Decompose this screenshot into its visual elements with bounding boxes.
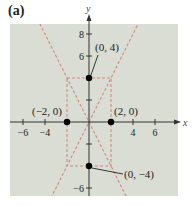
x-tick-label: 4 bbox=[131, 127, 136, 138]
x-tick-label: 6 bbox=[153, 127, 158, 138]
x-tick-label: −4 bbox=[40, 127, 51, 138]
y-tick-label: −6 bbox=[73, 183, 84, 194]
point-label: (0, −4) bbox=[124, 168, 154, 181]
hyperbola-graph: xy −6−446−668 (0, 4)(0, −4)(−2, 0)(2, 0) bbox=[0, 0, 195, 208]
point-label: (2, 0) bbox=[114, 105, 138, 118]
y-tick-label: 8 bbox=[79, 29, 84, 40]
y-axis-label: y bbox=[85, 3, 91, 14]
x-tick-label: −6 bbox=[18, 127, 29, 138]
y-axis-arrow-icon bbox=[87, 14, 92, 21]
x-axis-label: x bbox=[182, 117, 188, 128]
point-label: (0, 4) bbox=[95, 41, 119, 54]
data-point bbox=[86, 75, 92, 81]
data-point bbox=[86, 163, 92, 169]
data-point bbox=[108, 119, 114, 125]
point-label: (−2, 0) bbox=[32, 105, 62, 118]
data-point bbox=[64, 119, 70, 125]
y-tick-label: 6 bbox=[79, 51, 84, 62]
